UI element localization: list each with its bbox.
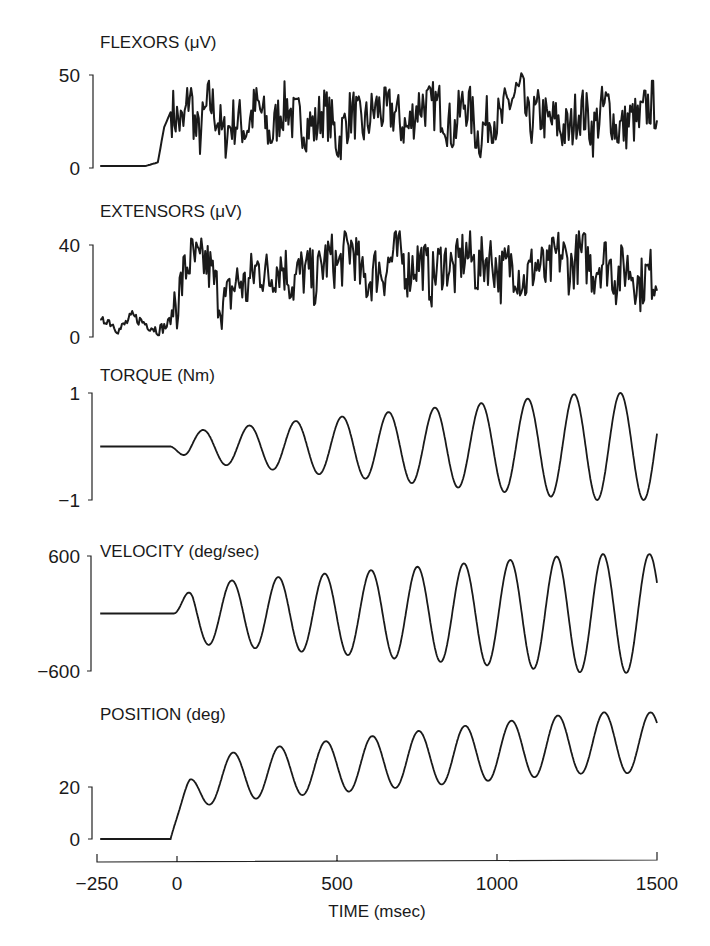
extensors-y-tick-min: 0 (69, 327, 80, 348)
flexors-y-axis (89, 75, 93, 168)
torque-panel-label: TORQUE (Nm) (100, 366, 215, 385)
torque-trace (100, 393, 657, 500)
torque-y-axis (88, 393, 92, 500)
position-y-axis (88, 787, 92, 839)
flexors-panel-label: FLEXORS (μV) (100, 33, 217, 52)
velocity-y-tick-max: 600 (48, 546, 80, 567)
extensors-y-axis (89, 245, 93, 337)
extensors-panel-label: EXTENSORS (μV) (100, 202, 242, 221)
x-tick-neg250: −250 (76, 873, 119, 894)
velocity-panel-label: VELOCITY (deg/sec) (100, 542, 259, 561)
x-tick-1000: 1000 (476, 873, 518, 894)
torque-y-tick-min: −1 (58, 490, 80, 511)
x-tick-1500: 1500 (636, 873, 678, 894)
position-panel-label: POSITION (deg) (100, 705, 226, 724)
time-x-axis (97, 852, 657, 862)
position-y-tick-max: 20 (59, 777, 80, 798)
flexors-y-tick-max: 50 (59, 65, 80, 86)
velocity-y-axis (87, 556, 91, 671)
x-axis-title: TIME (msec) (328, 902, 425, 921)
multi-panel-time-series-chart: FLEXORS (μV) EXTENSORS (μV) TORQUE (Nm) … (0, 0, 710, 946)
extensors-emg-trace (100, 231, 657, 335)
flexors-y-tick-min: 0 (69, 158, 80, 179)
flexors-emg-trace (100, 73, 657, 166)
position-trace (100, 712, 657, 839)
velocity-y-tick-min: −600 (37, 661, 80, 682)
velocity-trace (100, 554, 657, 673)
position-y-tick-min: 0 (69, 829, 80, 850)
x-tick-500: 500 (321, 873, 353, 894)
x-tick-0: 0 (172, 873, 183, 894)
extensors-y-tick-max: 40 (59, 235, 80, 256)
torque-y-tick-max: 1 (69, 383, 80, 404)
